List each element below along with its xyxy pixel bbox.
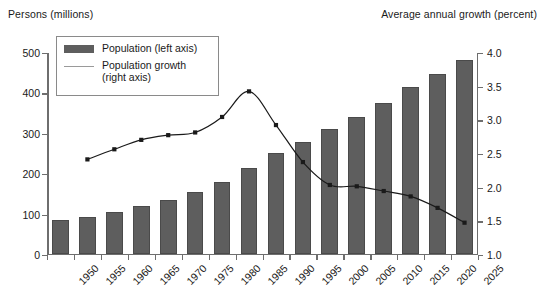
legend-line-swatch — [64, 62, 94, 70]
x-tick — [316, 255, 317, 260]
legend-entry-population: Population (left axis) — [64, 42, 212, 55]
x-tick-label: 1980 — [238, 262, 263, 287]
left-tick-label: 200 — [22, 168, 40, 180]
x-tick — [155, 255, 156, 260]
growth-marker: 2020: 1.7 — [435, 206, 439, 210]
growth-marker: 1955: 2.42 — [85, 157, 89, 161]
right-tick — [478, 154, 483, 155]
x-tick-label: 1975 — [211, 262, 236, 287]
left-tick-label: 500 — [22, 47, 40, 59]
x-tick-label: 1970 — [184, 262, 209, 287]
x-tick — [424, 255, 425, 260]
right-tick-label: 2.5 — [487, 148, 502, 160]
growth-marker: 1970: 2.78 — [166, 133, 170, 137]
growth-marker: 2015: 1.87 — [409, 194, 413, 198]
growth-marker: 1985: 3.43 — [247, 89, 251, 93]
x-tick — [128, 255, 129, 260]
legend-line-label-1: Population growth — [102, 59, 186, 72]
x-tick-label: 2010 — [400, 262, 425, 287]
x-tick-label: 2000 — [346, 262, 371, 287]
growth-marker: 2000: 2.04 — [328, 183, 332, 187]
right-tick — [478, 53, 483, 54]
x-tick — [289, 255, 290, 260]
growth-marker: 1990: 2.93 — [274, 123, 278, 127]
chart-figure: Persons (millions) Average annual growth… — [0, 0, 541, 302]
legend-bar-label: Population (left axis) — [102, 42, 197, 55]
x-tick — [397, 255, 398, 260]
legend: Population (left axis) Population growth… — [56, 36, 219, 96]
right-axis-title: Average annual growth (percent) — [381, 8, 537, 20]
right-tick-label: 1.0 — [487, 249, 502, 261]
left-axis-title: Persons (millions) — [8, 8, 93, 20]
x-tick — [47, 255, 48, 260]
growth-marker: 1965: 2.71 — [139, 138, 143, 142]
right-tick-label: 4.0 — [487, 47, 502, 59]
x-tick-label: 2015 — [426, 262, 451, 287]
left-tick-label: 0 — [34, 249, 40, 261]
x-tick-label: 1990 — [292, 262, 317, 287]
left-tick-label: 400 — [22, 87, 40, 99]
x-tick — [182, 255, 183, 260]
x-tick-label: 1965 — [157, 262, 182, 287]
x-tick-label: 1950 — [76, 262, 101, 287]
right-tick-label: 3.0 — [487, 114, 502, 126]
x-tick — [370, 255, 371, 260]
growth-marker: 2025: 1.48 — [462, 221, 466, 225]
x-tick-label: 1955 — [103, 262, 128, 287]
left-tick-label: 300 — [22, 128, 40, 140]
right-tick-label: 3.5 — [487, 81, 502, 93]
x-tick — [343, 255, 344, 260]
legend-line-label-2: (right axis) — [102, 71, 186, 84]
growth-marker: 2005: 2.02 — [355, 184, 359, 188]
x-tick — [451, 255, 452, 260]
legend-entry-growth: Population growth (right axis) — [64, 59, 212, 84]
x-tick-label: 2005 — [373, 262, 398, 287]
left-tick-label: 100 — [22, 209, 40, 221]
x-tick-label: 2025 — [480, 262, 505, 287]
right-tick-label: 2.0 — [487, 182, 502, 194]
growth-marker: 1960: 2.57 — [112, 147, 116, 151]
x-tick-label: 1985 — [265, 262, 290, 287]
x-tick — [101, 255, 102, 260]
x-tick — [209, 255, 210, 260]
x-tick-label: 1960 — [130, 262, 155, 287]
x-tick — [478, 255, 479, 260]
growth-line — [87, 91, 464, 222]
x-tick-label: 2020 — [453, 262, 478, 287]
right-tick — [478, 221, 483, 222]
x-tick — [263, 255, 264, 260]
growth-marker: 2010: 1.95 — [382, 189, 386, 193]
right-tick — [478, 87, 483, 88]
growth-marker: 1980: 3.05 — [220, 115, 224, 119]
growth-marker: 1975: 2.82 — [193, 130, 197, 134]
growth-marker: 1995: 2.38 — [301, 160, 305, 164]
right-tick — [478, 188, 483, 189]
x-tick — [74, 255, 75, 260]
x-tick — [236, 255, 237, 260]
right-tick-label: 1.5 — [487, 215, 502, 227]
right-tick — [478, 120, 483, 121]
x-tick-label: 1995 — [319, 262, 344, 287]
legend-bar-swatch — [64, 45, 94, 53]
